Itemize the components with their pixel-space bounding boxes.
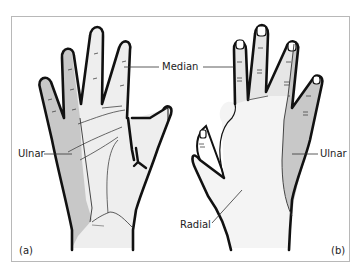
label-ulnar-a: Ulnar [18, 148, 45, 160]
panel-label-b: (b) [331, 245, 345, 257]
palm-hand [39, 27, 171, 250]
label-ulnar-b: Ulnar [320, 148, 347, 160]
label-median: Median [162, 61, 198, 73]
label-radial: Radial [180, 219, 211, 231]
panel-label-a: (a) [19, 245, 33, 257]
hands-illustration [0, 0, 361, 279]
median-region-dorsum [234, 25, 294, 104]
dorsum-hand [193, 25, 323, 250]
